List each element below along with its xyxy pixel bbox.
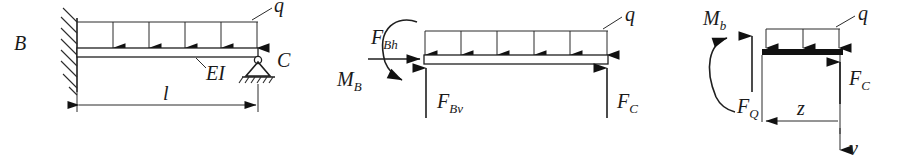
moment-arc-mb-3-tail — [716, 97, 735, 112]
figure-container: B C q EI l — [0, 0, 915, 167]
wall-hatching — [61, 8, 77, 95]
load-arrows — [113, 22, 257, 48]
label-span-l: l — [163, 82, 169, 104]
moment-arc-mb-head — [385, 62, 402, 80]
label-moment-mb-3: Mb — [702, 7, 727, 33]
label-force-fq: FQ — [736, 95, 759, 121]
moment-arc-mb-3 — [709, 38, 727, 97]
label-q-3: q — [858, 2, 868, 25]
beam-body-2 — [424, 55, 608, 64]
q-leader-line — [252, 8, 272, 20]
diagram-3-group: Mb FQ FC q z v — [702, 2, 870, 159]
label-deflection-v: v — [849, 137, 858, 159]
label-support-b: B — [14, 32, 26, 54]
beam-body-3 — [762, 49, 843, 55]
label-q-2: q — [625, 3, 635, 26]
diagram-2-group: MB FBh FBv FC q — [336, 3, 638, 118]
support-pin-c — [239, 56, 275, 83]
label-coordinate-z: z — [796, 97, 805, 119]
label-force-fbv: FBv — [436, 90, 463, 116]
label-support-c: C — [277, 49, 291, 71]
label-force-fbh: FBh — [370, 26, 398, 52]
label-force-fc-2: FC — [616, 90, 638, 116]
load-arrows-2 — [425, 31, 607, 55]
figure-svg: B C q EI l — [0, 0, 915, 167]
label-force-fc-3: FC — [848, 67, 870, 93]
label-ei: EI — [205, 62, 226, 84]
q-leader-line-2 — [603, 17, 622, 29]
q-leader-line-3 — [836, 16, 855, 27]
label-moment-mb: MB — [336, 68, 362, 94]
ei-leader-line — [196, 58, 206, 68]
load-arrows-3 — [766, 29, 839, 48]
label-q-1: q — [274, 0, 284, 17]
diagram-1-group: B C q EI l — [14, 0, 291, 112]
beam-body — [77, 48, 258, 57]
